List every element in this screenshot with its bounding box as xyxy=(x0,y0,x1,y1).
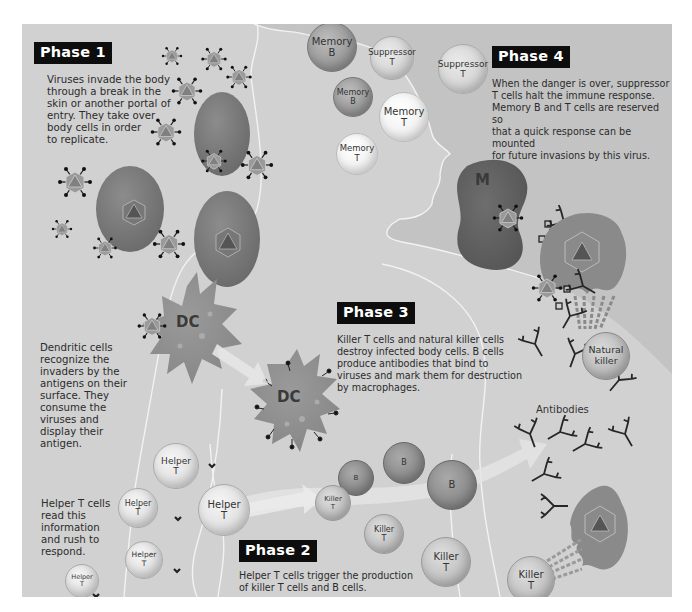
text-line: surface. They xyxy=(40,390,140,402)
cell-label: T xyxy=(460,69,466,79)
memory-t-cell: MemoryT xyxy=(336,133,378,175)
killer-t-cell: KillerT xyxy=(364,514,404,554)
text-line: body cells in order xyxy=(47,122,217,134)
cell-label: killer xyxy=(594,356,617,367)
natural-killer-cell: Naturalkiller xyxy=(582,332,630,380)
text-line: destroy infected body cells. B cells xyxy=(337,346,522,358)
cell-label: T xyxy=(173,466,179,476)
text-line: and rush to xyxy=(41,534,136,546)
text-line: for future invasions by this virus. xyxy=(492,150,672,162)
text-line: respond. xyxy=(41,546,136,558)
cell-label: T xyxy=(389,58,394,68)
helper-t-cell: HelperT xyxy=(198,484,250,536)
cell-label: Memory xyxy=(337,88,370,97)
cell-label: T xyxy=(382,534,387,543)
text-line: skin or another portal of xyxy=(47,98,217,110)
memory-t-cell: MemoryT xyxy=(379,92,429,142)
cell-label: B xyxy=(350,97,356,106)
text-line: viruses and mark them for destruction xyxy=(337,370,522,382)
cell-label: B xyxy=(449,479,456,491)
cell-label: Killer xyxy=(433,551,458,563)
memory-b-cell: MemoryB xyxy=(333,77,373,117)
text-line: by macrophages. xyxy=(337,382,522,394)
killer-t-cell: KillerT xyxy=(315,485,351,521)
text-line: T cells halt the immune response. xyxy=(492,90,672,102)
text-line: through a break in the xyxy=(47,86,217,98)
cell-label: B xyxy=(329,47,336,59)
cell-label: Helper xyxy=(125,499,151,508)
phase-1-description: Viruses invade the body through a break … xyxy=(47,74,217,146)
helper-t-cell: HelperT xyxy=(65,564,99,597)
text-line: antigen. xyxy=(40,438,140,450)
text-line: viruses and xyxy=(40,414,140,426)
suppressor-t-cell: SuppressorT xyxy=(370,36,414,80)
helper-t-cell: HelperT xyxy=(125,541,163,579)
text-line: entry. They take over xyxy=(47,110,217,122)
cell-label: T xyxy=(136,508,141,517)
text-line: Viruses invade the body xyxy=(47,74,217,86)
text-line: consume the xyxy=(40,402,140,414)
suppressor-t-cell: SuppressorT xyxy=(438,44,488,94)
cell-label: Killer xyxy=(374,525,394,534)
text-line: Killer T cells and natural killer cells xyxy=(337,334,522,346)
cell-label: T xyxy=(221,510,227,522)
cell-label: Killer xyxy=(324,495,342,503)
phase-4-label: Phase 4 xyxy=(492,46,570,68)
dendritic-cell-label: DC xyxy=(176,313,199,331)
memory-b-cell: MemoryB xyxy=(307,24,357,72)
cell-label: Helper xyxy=(161,456,191,466)
phase-3-description: Killer T cells and natural killer cells … xyxy=(337,334,522,394)
text-line: that a quick response can be mounted xyxy=(492,126,672,150)
cell-label: Suppressor xyxy=(438,59,488,69)
cell-label: T xyxy=(80,581,84,588)
phase-4-description: When the danger is over, suppressor T ce… xyxy=(492,78,672,162)
phase-3-label: Phase 3 xyxy=(337,302,415,324)
macrophage-label: M xyxy=(475,171,490,189)
cell-label: T xyxy=(142,560,147,569)
cell-label: Memory xyxy=(312,36,353,48)
b-cell: B xyxy=(427,460,477,510)
text-line: Dendritic cells xyxy=(40,342,140,354)
cell-label: T xyxy=(331,503,335,511)
text-line: Helper T cells trigger the production xyxy=(239,570,439,582)
cell-label: T xyxy=(401,117,407,129)
phase-2-label: Phase 2 xyxy=(239,540,317,562)
immune-response-diagram: Phase 1 Viruses invade the body through … xyxy=(22,24,672,597)
killer-t-cell: KillerT xyxy=(507,556,555,597)
text-line: to replicate. xyxy=(47,134,217,146)
cell-label: B xyxy=(354,474,359,482)
helper-t-cell: HelperT xyxy=(153,443,199,489)
cell-label: Memory xyxy=(384,106,425,118)
b-cell: B xyxy=(383,442,425,484)
cell-label: B xyxy=(401,458,407,467)
cell-label: T xyxy=(354,154,359,164)
cell-label: T xyxy=(528,580,534,592)
phase-2-description: Helper T cells trigger the production of… xyxy=(239,570,439,594)
text-line: recognize the xyxy=(40,354,140,366)
dendritic-cell-label: DC xyxy=(277,388,300,406)
text-line: information xyxy=(41,522,136,534)
phase-1-label: Phase 1 xyxy=(34,42,112,64)
cell-label: Killer xyxy=(518,569,543,581)
antibodies-label: Antibodies xyxy=(536,404,589,415)
text-line: When the danger is over, suppressor xyxy=(492,78,672,90)
text-line: display their xyxy=(40,426,140,438)
cell-label: T xyxy=(443,562,449,574)
killer-t-cell: KillerT xyxy=(421,537,471,587)
helper-t-cell: HelperT xyxy=(118,488,158,528)
cell-label: Helper xyxy=(207,499,240,511)
text-line: Memory B and T cells are reserved so xyxy=(492,102,672,126)
dendritic-cells-note: Dendritic cells recognize the invaders b… xyxy=(40,342,140,450)
text-line: invaders by the xyxy=(40,366,140,378)
text-line: antigens on their xyxy=(40,378,140,390)
text-line: of killer T cells and B cells. xyxy=(239,582,439,594)
text-line: produce antibodies that bind to xyxy=(337,358,522,370)
